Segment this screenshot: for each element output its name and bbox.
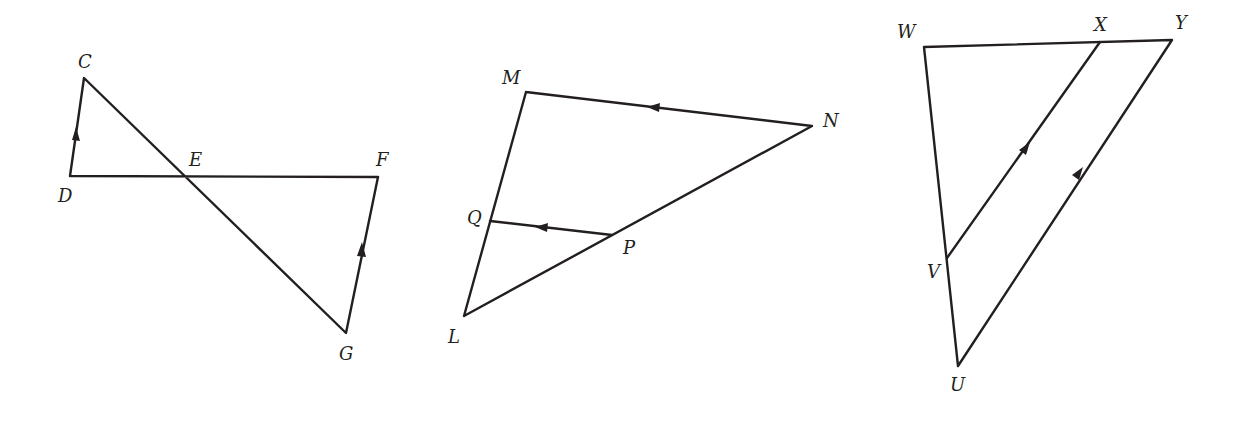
geometry-diagram: C D E F G M N Q P L W X Y V U [0, 0, 1246, 422]
label-m: M [501, 67, 521, 88]
label-e: E [188, 149, 202, 170]
triangle-uwy-outline [924, 40, 1172, 366]
label-y: Y [1175, 12, 1189, 33]
parallel-arrow-pq [535, 223, 548, 232]
figure-bowtie: C D E F G [57, 51, 390, 364]
triangle-lmn-outline [464, 92, 812, 316]
label-d: D [57, 185, 73, 206]
label-c: C [78, 51, 92, 72]
label-q: Q [467, 207, 482, 228]
label-u: U [950, 374, 966, 395]
label-v: V [927, 261, 942, 282]
label-w: W [897, 21, 917, 42]
label-l: L [447, 326, 460, 347]
parallel-arrow-dc [72, 127, 80, 141]
label-x: X [1092, 14, 1108, 35]
segment-qp [490, 221, 612, 235]
bowtie-outline [70, 78, 378, 333]
figure-triangle-lmn: M N Q P L [447, 67, 840, 347]
figure-triangle-uwy: W X Y V U [897, 12, 1189, 395]
label-f: F [375, 149, 390, 170]
parallel-arrow-nm [647, 103, 660, 112]
label-n: N [822, 110, 840, 131]
label-g: G [339, 343, 353, 364]
label-p: P [622, 237, 636, 258]
